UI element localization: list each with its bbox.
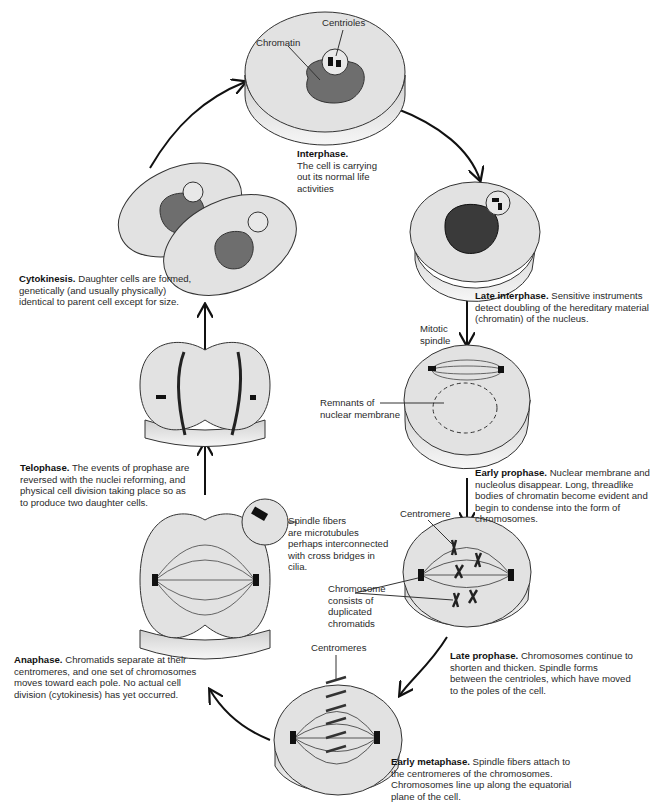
caption-late-prophase: Late prophase. Chromosomes continue to s… [450,650,633,696]
label-chromosome: Chromosomeconsists of duplicatedchromati… [328,583,386,629]
label-centrioles: Centrioles [322,17,365,29]
label-mitotic-spindle: Mitoticspindle [420,323,450,346]
label-spindle-fibers: Spindle fibersare microtubules perhaps i… [288,515,388,573]
cell-anaphase [140,499,297,659]
cell-early-prophase [380,345,530,469]
label-centromere: Centromere [400,508,451,520]
caption-interphase: Interphase. The cell is carryingout its … [297,148,377,194]
cell-interphase [245,12,405,145]
caption-early-metaphase: Early metaphase. Spindle fibers attach t… [391,756,571,802]
caption-late-interphase: Late interphase. Sensitive instruments d… [475,290,649,325]
label-remnants-nuclear-membrane: Remnants ofnuclear membrane [320,397,400,420]
label-chromatin: Chromatin [256,37,300,49]
caption-early-prophase: Early prophase. Nuclear membrane and nuc… [475,467,650,525]
caption-anaphase: Anaphase. Chromatids separate at their c… [14,654,196,700]
cell-telophase [140,342,270,446]
cell-early-metaphase [274,655,402,795]
cell-late-interphase [410,182,540,301]
caption-cytokinesis: Cytokinesis. Daughter cells are formed, … [19,273,191,308]
label-centromeres: Centromeres [311,642,366,654]
caption-telophase: Telophase. The events of prophase are re… [20,462,189,508]
